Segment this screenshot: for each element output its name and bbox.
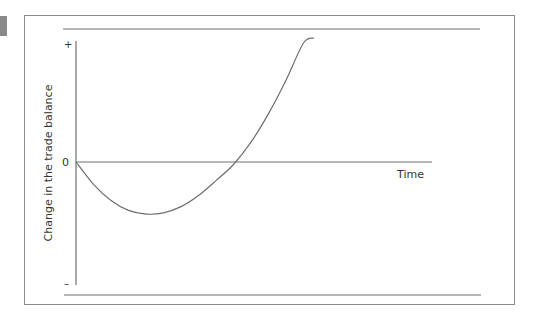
x-axis-label: Time [396, 168, 424, 181]
y-axis-label: Change in the trade balance [42, 84, 55, 241]
y-tick-plus: + [64, 39, 72, 50]
j-curve-line [76, 38, 314, 214]
y-tick-minus: – [64, 278, 69, 289]
y-tick-zero: 0 [62, 156, 69, 169]
chart-svg: + 0 – Time Change in the trade balance [0, 0, 538, 324]
